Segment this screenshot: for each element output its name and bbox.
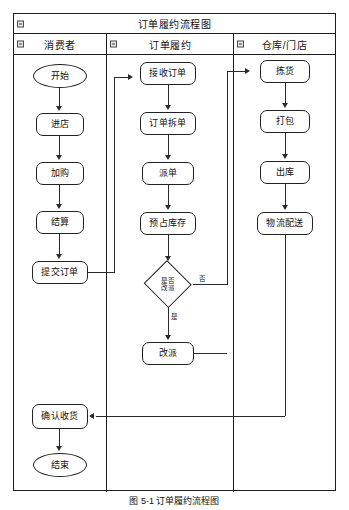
collapse-minus-icon[interactable] — [17, 20, 24, 27]
node-add-cart[interactable]: 加购 — [36, 162, 84, 185]
node-checkout[interactable]: 结算 — [36, 211, 84, 234]
node-start-label: 开始 — [51, 71, 70, 81]
flowchart-page: 订单履约流程图 消费者 订单履约 仓库/门店 开始 — [0, 0, 349, 510]
node-pack-label: 打包 — [276, 116, 295, 126]
lane-label-fulfillment: 订单履约 — [149, 37, 191, 52]
node-receive-order[interactable]: 接收订单 — [140, 62, 196, 85]
collapse-minus-icon[interactable] — [237, 41, 244, 48]
node-enter-store[interactable]: 进店 — [36, 113, 84, 136]
node-submit-order[interactable]: 提交订单 — [32, 261, 88, 284]
node-reassign-label: 改派 — [159, 348, 178, 358]
node-decision-label: 是否 改派 — [161, 277, 176, 291]
edge-enter-store-to-add-cart — [59, 136, 60, 157]
node-end[interactable]: 结束 — [33, 453, 87, 477]
edge-checkout-to-submit-order — [59, 234, 60, 256]
arrowhead-delivery — [282, 205, 288, 210]
node-split-order-label: 订单拆单 — [149, 118, 186, 128]
lane-header-fulfillment[interactable]: 订单履约 — [106, 34, 233, 54]
edge-reassign-to-trunk — [194, 353, 227, 354]
lane-label-consumer: 消费者 — [44, 37, 76, 52]
diagram-title-bar: 订单履约流程图 — [14, 14, 335, 34]
edge-delivery-to-confirm-h — [96, 416, 285, 417]
edge-receive-to-split — [168, 85, 169, 107]
arrowhead-outbound — [282, 154, 288, 159]
arrowhead-pack — [282, 103, 288, 108]
figure-caption: 图 5-1 订单履约流程图 — [0, 494, 349, 510]
node-enter-store-label: 进店 — [51, 119, 70, 129]
arrowhead-reserve-stock — [165, 205, 171, 210]
node-checkout-label: 结算 — [51, 217, 70, 227]
node-end-label: 结束 — [51, 460, 70, 470]
lane-header-consumer[interactable]: 消费者 — [14, 34, 106, 54]
lane-label-warehouse: 仓库/门店 — [262, 37, 307, 52]
edge-dispatch-to-reserve — [168, 185, 169, 207]
node-reserve-stock-label: 预占库存 — [149, 218, 186, 228]
arrowhead-add-cart — [56, 155, 62, 160]
node-decision-reassign[interactable]: 是否 改派 — [143, 261, 193, 307]
node-outbound-label: 出库 — [276, 167, 295, 177]
node-confirm-receipt-label: 确认收货 — [41, 411, 78, 421]
lane-divider-2 — [233, 55, 234, 492]
node-pick[interactable]: 拣货 — [260, 60, 310, 83]
arrowhead-submit-order — [56, 254, 62, 259]
lane-header-warehouse[interactable]: 仓库/门店 — [233, 34, 335, 54]
arrowhead-receive-order — [128, 74, 133, 80]
node-start[interactable]: 开始 — [33, 64, 87, 88]
diagram-frame: 订单履约流程图 消费者 订单履约 仓库/门店 开始 — [13, 13, 336, 491]
arrowhead-split-order — [165, 105, 171, 110]
arrowhead-end — [56, 446, 62, 451]
node-dispatch-label: 派单 — [159, 168, 178, 178]
node-reassign[interactable]: 改派 — [142, 342, 194, 365]
edge-decision-no-v — [227, 71, 228, 284]
edge-decision-no-h — [193, 284, 228, 285]
edge-submit-to-receive-h1 — [88, 272, 114, 273]
edge-label-yes: 是 — [170, 314, 178, 321]
collapse-minus-icon[interactable] — [110, 41, 117, 48]
node-pick-label: 拣货 — [276, 66, 295, 76]
node-dispatch[interactable]: 派单 — [142, 162, 194, 185]
node-add-cart-label: 加购 — [51, 168, 70, 178]
node-confirm-receipt[interactable]: 确认收货 — [32, 404, 88, 429]
edge-decision-yes-v — [168, 307, 169, 338]
diagram-title: 订单履约流程图 — [138, 16, 212, 31]
node-delivery-label: 物流配送 — [266, 218, 303, 228]
edge-add-cart-to-checkout — [59, 185, 60, 206]
edge-split-to-dispatch — [168, 135, 169, 157]
edge-label-no: 否 — [198, 276, 206, 283]
arrowhead-enter-store — [56, 106, 62, 111]
edge-pick-to-pack — [285, 83, 286, 105]
arrowhead-pick — [245, 68, 250, 74]
edge-submit-to-receive-v — [114, 77, 115, 273]
node-submit-order-label: 提交订单 — [41, 267, 78, 277]
arrowhead-reassign — [165, 335, 171, 340]
node-reserve-stock[interactable]: 预占库存 — [140, 212, 196, 235]
edge-delivery-to-confirm-v — [285, 235, 286, 416]
collapse-minus-icon[interactable] — [17, 41, 24, 48]
arrowhead-confirm-receipt — [89, 413, 94, 419]
arrowhead-checkout — [56, 204, 62, 209]
node-pack[interactable]: 打包 — [260, 110, 310, 133]
edge-no-to-pick-h — [227, 71, 247, 72]
lane-header-row: 消费者 订单履约 仓库/门店 — [14, 34, 335, 55]
node-split-order[interactable]: 订单拆单 — [140, 112, 196, 135]
arrowhead-dispatch — [165, 155, 171, 160]
node-receive-order-label: 接收订单 — [149, 68, 186, 78]
lane-divider-1 — [106, 55, 107, 492]
node-outbound[interactable]: 出库 — [260, 161, 310, 184]
edge-start-to-enter-store — [59, 88, 60, 108]
node-delivery[interactable]: 物流配送 — [257, 212, 313, 235]
